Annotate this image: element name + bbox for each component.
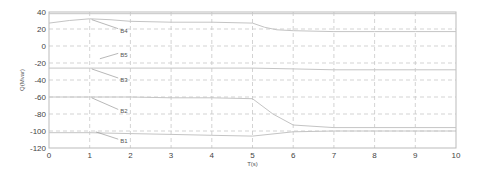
x-tick-labels: 012345678910 bbox=[47, 151, 461, 160]
annotation-label-b2: B2 bbox=[120, 108, 128, 114]
y-tick-label: -20 bbox=[34, 59, 46, 68]
x-tick-label: 8 bbox=[372, 151, 377, 160]
y-tick-label: -60 bbox=[34, 93, 46, 102]
y-tick-label: -40 bbox=[34, 76, 46, 85]
annotation-label-b5: B5 bbox=[120, 52, 128, 58]
y-tick-label: 0 bbox=[42, 42, 47, 51]
annotations: B4B5B3B2B1 bbox=[92, 20, 128, 145]
annotation-leader-line bbox=[92, 20, 118, 29]
x-tick-label: 7 bbox=[332, 151, 337, 160]
y-tick-label: 40 bbox=[37, 8, 46, 17]
y-axis-label: Q(Mvar) bbox=[19, 69, 25, 91]
y-tick-label: -120 bbox=[30, 144, 47, 153]
chart: B4B5B3B2B1 012345678910 40200-20-40-60-8… bbox=[0, 0, 478, 169]
x-tick-label: 1 bbox=[87, 151, 92, 160]
x-tick-label: 6 bbox=[291, 151, 296, 160]
x-axis-label: T(s) bbox=[247, 161, 258, 167]
annotation-label-b1: B1 bbox=[120, 138, 128, 144]
x-tick-label: 9 bbox=[413, 151, 418, 160]
annotation-label-b3: B3 bbox=[120, 77, 128, 83]
annotation-leader-line bbox=[92, 98, 118, 110]
x-tick-label: 0 bbox=[47, 151, 52, 160]
annotation-leader-line bbox=[92, 69, 118, 78]
y-tick-label: -80 bbox=[34, 110, 46, 119]
annotation-leader-line bbox=[100, 53, 118, 58]
y-tick-labels: 40200-20-40-60-80-100-120 bbox=[30, 8, 47, 153]
x-tick-label: 4 bbox=[210, 151, 215, 160]
x-tick-label: 2 bbox=[128, 151, 133, 160]
x-tick-label: 5 bbox=[250, 151, 255, 160]
x-tick-label: 3 bbox=[169, 151, 174, 160]
annotation-label-b4: B4 bbox=[120, 28, 128, 34]
y-tick-label: 20 bbox=[37, 25, 46, 34]
y-tick-label: -100 bbox=[30, 127, 47, 136]
x-tick-label: 10 bbox=[452, 151, 461, 160]
